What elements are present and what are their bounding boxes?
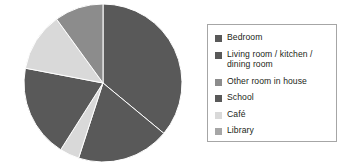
legend-item-label: Other room in house [227,76,307,87]
legend-item-library[interactable]: Library [215,125,330,136]
legend-item-other-room-in-house[interactable]: Other room in house [215,76,330,87]
pie-chart-area [0,0,200,162]
legend-item-label: Living room / kitchen / dining room [227,49,313,70]
legend-swatch-icon [215,79,222,86]
legend-swatch-icon [215,128,222,135]
pie-slices-group [24,4,182,162]
pie-chart-figure: Bedroom Living room / kitchen / dining r… [0,0,353,162]
legend-item-living-room-kitchen-dining-room[interactable]: Living room / kitchen / dining room [215,49,330,70]
legend-swatch-icon [215,52,222,59]
legend-item-label: Bedroom [227,32,262,43]
legend-item-school[interactable]: School [215,92,330,103]
pie-chart-svg [0,0,200,162]
legend-item-label: Café [227,109,246,120]
legend-swatch-icon [215,112,222,119]
legend-item-cafe[interactable]: Café [215,109,330,120]
legend-item-bedroom[interactable]: Bedroom [215,32,330,43]
legend-swatch-icon [215,35,222,42]
legend-swatch-icon [215,95,222,102]
legend-item-label: School [227,92,254,103]
chart-legend: Bedroom Living room / kitchen / dining r… [207,24,337,142]
legend-item-label: Library [227,125,254,136]
